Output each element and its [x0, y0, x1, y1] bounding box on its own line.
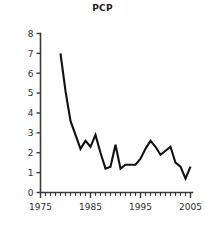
x-axis: 1975198519952005 — [29, 193, 202, 212]
x-tick-label: 1995 — [129, 202, 152, 212]
x-tick-label: 1985 — [79, 202, 102, 212]
x-tick-label: 2005 — [179, 202, 202, 212]
y-tick-label: 3 — [28, 128, 34, 138]
y-tick-label: 7 — [28, 49, 34, 59]
y-tick-label: 8 — [28, 29, 34, 39]
y-tick-label: 6 — [28, 69, 34, 79]
y-tick-label: 0 — [28, 188, 34, 198]
chart-page: PCP 012345678 1975198519952005 — [0, 0, 205, 227]
line-chart: 012345678 1975198519952005 — [0, 0, 205, 227]
x-tick-label: 1975 — [29, 202, 52, 212]
y-tick-label: 2 — [28, 148, 34, 158]
data-series-line — [61, 53, 191, 178]
y-tick-label: 4 — [28, 108, 34, 118]
y-tick-label: 1 — [28, 168, 34, 178]
y-axis: 012345678 — [28, 29, 41, 198]
y-tick-label: 5 — [28, 88, 34, 98]
